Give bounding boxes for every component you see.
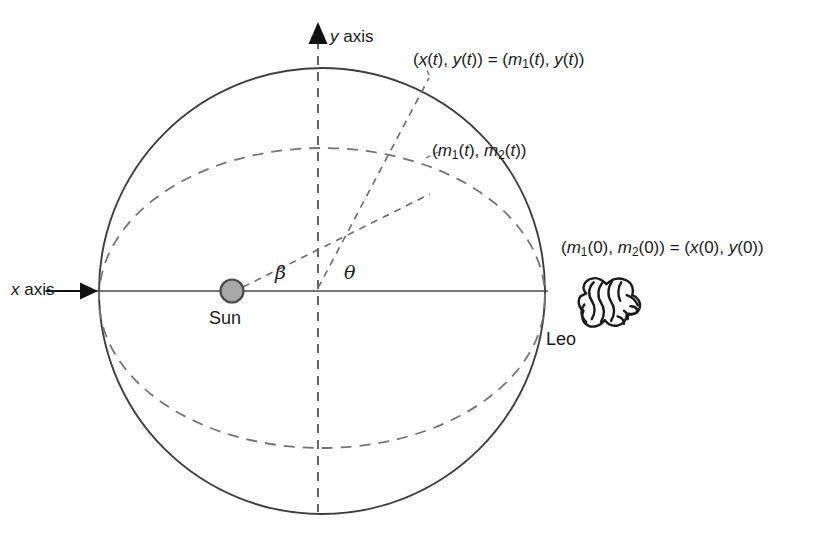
y-axis-arrowhead bbox=[309, 22, 328, 44]
beta-ray bbox=[243, 194, 430, 287]
x-axis-label: x axis bbox=[11, 281, 54, 299]
theta-ray bbox=[318, 78, 429, 288]
orbit-diagram: x axis y axis (x(t), y(t)) = (m1(t), y(t… bbox=[0, 0, 840, 543]
beta-angle-label: β bbox=[275, 263, 286, 283]
initial-point-label: (m1(0), m2(0)) = (x(0), y(0)) bbox=[561, 239, 764, 259]
orbit-ellipse bbox=[99, 148, 545, 448]
theta-angle-label: θ bbox=[344, 263, 355, 283]
diagram-canvas bbox=[0, 0, 840, 543]
outer-point-label: (x(t), y(t)) = (m1(t), y(t)) bbox=[413, 51, 585, 71]
orbit-point-label: (m1(t), m2(t)) bbox=[432, 142, 527, 162]
sun-label: Sun bbox=[209, 309, 241, 328]
leo-lion-icon bbox=[579, 278, 640, 326]
leo-label: Leo bbox=[546, 330, 576, 349]
x-axis-arrowhead bbox=[80, 283, 98, 300]
y-axis-label: y axis bbox=[330, 28, 373, 46]
sun-body bbox=[221, 280, 244, 303]
